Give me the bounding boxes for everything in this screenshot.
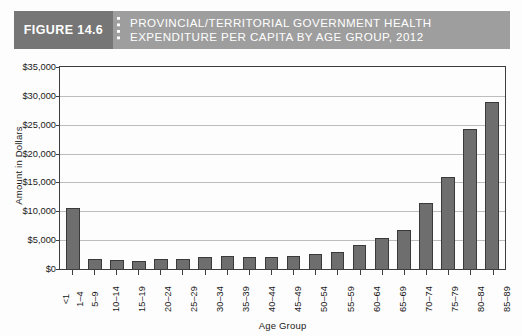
bar-chart: Amount in Dollars $0$5,000$10,000$15,000… bbox=[0, 56, 522, 336]
figure-banner: FIGURE 14.6 PROVINCIAL/TERRITORIAL GOVER… bbox=[14, 11, 510, 49]
bar-column bbox=[437, 67, 459, 269]
bar-column bbox=[106, 67, 128, 269]
bar-column bbox=[62, 67, 84, 269]
x-axis-label-cell: 30–34 bbox=[207, 277, 233, 321]
x-axis-label-cell: 80–84 bbox=[468, 277, 494, 321]
x-axis-label-cell: 10–14 bbox=[103, 277, 129, 321]
x-axis-label: 80–84 bbox=[476, 286, 486, 312]
bar bbox=[198, 257, 212, 269]
figure-title-line-1: PROVINCIAL/TERRITORIAL GOVERNMENT HEALTH bbox=[130, 16, 502, 30]
y-axis-title: Amount in Dollars bbox=[13, 86, 24, 246]
x-axis-label: 25–29 bbox=[189, 286, 199, 312]
x-axis-label-cell: 55–59 bbox=[338, 277, 364, 321]
y-axis-tick-label: $20,000 bbox=[22, 149, 56, 159]
x-axis-ticks bbox=[59, 270, 506, 276]
plot-area: $0$5,000$10,000$15,000$20,000$25,000$30,… bbox=[59, 66, 506, 270]
bar-series bbox=[60, 67, 505, 269]
x-axis-tick bbox=[438, 270, 460, 276]
bar-column bbox=[393, 67, 415, 269]
figure-title: PROVINCIAL/TERRITORIAL GOVERNMENT HEALTH… bbox=[124, 11, 510, 49]
y-axis-tick-label: $30,000 bbox=[22, 91, 56, 101]
x-axis-label: 40–44 bbox=[267, 286, 277, 312]
x-axis-label: 50–54 bbox=[320, 286, 330, 312]
bar-column bbox=[305, 67, 327, 269]
x-axis-label-cell: 40–44 bbox=[259, 277, 285, 321]
x-axis-label-cell: 70–74 bbox=[416, 277, 442, 321]
bar bbox=[66, 208, 80, 269]
x-axis-tick bbox=[83, 270, 105, 276]
bar bbox=[265, 257, 279, 269]
bar-column bbox=[371, 67, 393, 269]
bar bbox=[441, 177, 455, 269]
bar-column bbox=[327, 67, 349, 269]
bar bbox=[110, 260, 124, 269]
bar bbox=[397, 230, 411, 269]
x-axis-label-cell: 85–89 bbox=[494, 277, 520, 321]
x-axis-tick bbox=[150, 270, 172, 276]
x-axis-label: <1 bbox=[61, 294, 71, 305]
y-axis-tick-label: $35,000 bbox=[22, 62, 56, 72]
bar-column bbox=[238, 67, 260, 269]
x-axis-label: 30–34 bbox=[215, 286, 225, 312]
bar bbox=[463, 129, 477, 269]
bar-column bbox=[481, 67, 503, 269]
x-axis-tick bbox=[416, 270, 438, 276]
x-axis-label-cell: <1 bbox=[61, 277, 72, 321]
bar bbox=[221, 256, 235, 269]
x-axis-label-cell: 25–29 bbox=[181, 277, 207, 321]
x-axis-label: 75–79 bbox=[450, 286, 460, 312]
figure-page: FIGURE 14.6 PROVINCIAL/TERRITORIAL GOVER… bbox=[0, 0, 522, 336]
x-axis-label: 60–64 bbox=[372, 286, 382, 312]
dotted-divider-icon bbox=[113, 11, 124, 49]
bar bbox=[132, 261, 146, 269]
x-axis-tick bbox=[105, 270, 127, 276]
bar bbox=[309, 254, 323, 269]
bar-column bbox=[128, 67, 150, 269]
y-axis-tick-label: $15,000 bbox=[22, 177, 56, 187]
x-axis-tick bbox=[371, 270, 393, 276]
y-axis-tick-label: $25,000 bbox=[22, 120, 56, 130]
x-axis-tick bbox=[393, 270, 415, 276]
x-axis-label: 20–24 bbox=[163, 286, 173, 312]
x-axis-label: 5–9 bbox=[90, 291, 100, 307]
bar-column bbox=[349, 67, 371, 269]
bar bbox=[287, 256, 301, 269]
x-axis-label: 45–49 bbox=[293, 286, 303, 312]
x-axis-label: 85–89 bbox=[502, 286, 512, 312]
bar bbox=[88, 259, 102, 269]
bar-column bbox=[459, 67, 481, 269]
bar bbox=[485, 102, 499, 269]
x-axis-tick bbox=[349, 270, 371, 276]
x-axis-label-cell: 65–69 bbox=[390, 277, 416, 321]
x-axis-label-cell: 75–79 bbox=[442, 277, 468, 321]
x-axis-label: 15–19 bbox=[137, 286, 147, 312]
x-axis-tick bbox=[61, 270, 83, 276]
x-axis-label: 1–4 bbox=[75, 291, 85, 307]
bar bbox=[375, 238, 389, 269]
x-axis-tick bbox=[127, 270, 149, 276]
x-axis-tick-labels: <11–45–910–1415–1920–2425–2930–3435–3940… bbox=[59, 277, 506, 321]
x-axis-label-cell: 45–49 bbox=[285, 277, 311, 321]
x-axis-label-cell: 5–9 bbox=[87, 277, 103, 321]
x-axis-label-cell: 35–39 bbox=[233, 277, 259, 321]
bar-column bbox=[84, 67, 106, 269]
bar-column bbox=[260, 67, 282, 269]
x-axis-tick bbox=[482, 270, 504, 276]
x-axis-tick bbox=[172, 270, 194, 276]
y-axis-tick-label: $0 bbox=[46, 264, 56, 274]
y-axis-tick-label: $5,000 bbox=[28, 235, 56, 245]
x-axis-label: 10–14 bbox=[111, 286, 121, 312]
bar-column bbox=[194, 67, 216, 269]
x-axis-tick bbox=[216, 270, 238, 276]
x-axis-tick bbox=[260, 270, 282, 276]
x-axis-tick bbox=[460, 270, 482, 276]
x-axis-label: 35–39 bbox=[241, 286, 251, 312]
figure-title-line-2: EXPENDITURE PER CAPITA BY AGE GROUP, 201… bbox=[130, 30, 502, 44]
x-axis-tick bbox=[194, 270, 216, 276]
figure-number-tag: FIGURE 14.6 bbox=[14, 11, 113, 49]
x-axis-tick bbox=[305, 270, 327, 276]
bar-column bbox=[150, 67, 172, 269]
bar-column bbox=[415, 67, 437, 269]
x-axis-title: Age Group bbox=[59, 320, 506, 331]
bar-column bbox=[172, 67, 194, 269]
